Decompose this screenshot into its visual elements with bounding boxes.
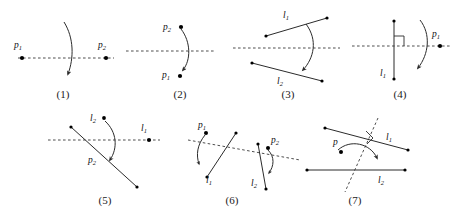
fig7-l2-endpoint-left [305, 168, 308, 171]
figure-3-caption: (3) [258, 88, 318, 100]
fig1-curved-arrow [64, 22, 72, 74]
fig5-segment-endpoint-bottom [135, 185, 138, 188]
fig6-l1-endpoint-top [234, 131, 237, 134]
fig5-segment-endpoint-top [69, 125, 72, 128]
fig3-label-l2: l2 [277, 76, 284, 87]
figure-5-caption: (5) [75, 194, 135, 206]
fig6-point-p2 [266, 146, 270, 150]
fig4-l1-endpoint-top [392, 19, 395, 22]
fig1-label-p1: p1 [13, 40, 22, 51]
figure-4: l1 p1 [352, 19, 452, 80]
fig5-segment-p2 [71, 127, 137, 187]
fig6-l2-endpoint-bottom [264, 187, 267, 190]
fig3-curved-arrow [303, 24, 313, 70]
fig3-segment-l1 [266, 18, 327, 36]
fig6-curved-arrow-right [268, 150, 273, 173]
fig2-label-p2: p2 [162, 22, 172, 33]
fig3-l1-endpoint-left [264, 34, 267, 37]
fig5-point-l1 [147, 138, 151, 142]
fig2-curved-arrow [181, 29, 189, 70]
fig1-label-p2: p2 [97, 40, 107, 51]
fig4-point-p1 [438, 44, 442, 48]
diagram-canvas: p1 p2 p2 p1 l1 l2 [0, 0, 466, 220]
fig1-point-p2 [104, 56, 108, 60]
figure-6-caption: (6) [202, 194, 262, 206]
fig7-curved-arrow [338, 144, 377, 158]
fig6-point-p1 [204, 131, 208, 135]
fig3-l2-endpoint-right [320, 79, 323, 82]
fig4-right-angle-mark [394, 36, 404, 46]
fig6-curved-arrow-left [197, 135, 205, 164]
fig6-mirror-line [188, 140, 300, 160]
fig7-label-l1: l1 [386, 132, 392, 143]
fig2-point-p2 [179, 25, 183, 29]
fig3-l2-endpoint-left [250, 61, 253, 64]
figure-2-caption: (2) [150, 88, 210, 100]
fig5-label-l2: l2 [90, 113, 97, 124]
fig5-point-l2 [102, 116, 106, 120]
fig6-label-l1: l1 [206, 175, 212, 186]
diagram-svg: p1 p2 p2 p1 l1 l2 [0, 0, 466, 220]
fig6-label-p2: p2 [270, 135, 280, 146]
fig6-label-l2: l2 [251, 178, 258, 189]
figure-5: l2 l1 p2 [48, 113, 160, 189]
figure-2: p2 p1 [126, 22, 216, 81]
fig4-curved-arrow [418, 20, 427, 68]
fig6-segment-l2 [258, 144, 266, 189]
fig4-l1-endpoint-bottom [392, 77, 395, 80]
fig7-l1-endpoint-left [323, 126, 326, 129]
fig5-curved-arrow [105, 121, 115, 160]
fig7-label-l2: l2 [378, 175, 385, 186]
figure-7-caption: (7) [325, 194, 385, 206]
fig1-point-p1 [20, 56, 24, 60]
fig2-point-p1 [178, 74, 182, 78]
fig6-l2-endpoint-top [256, 142, 259, 145]
fig2-label-p1: p1 [161, 70, 170, 81]
figure-7: l1 l2 p [305, 118, 409, 192]
fig6-label-p1: p1 [197, 120, 206, 131]
fig5-label-p2: p2 [87, 155, 97, 166]
fig7-point-p [339, 150, 343, 154]
fig7-l1-endpoint-right [406, 148, 409, 151]
figure-1-caption: (1) [33, 88, 93, 100]
fig7-label-p: p [332, 137, 338, 147]
fig3-label-l1: l1 [283, 10, 289, 21]
fig4-label-l1: l1 [380, 68, 386, 79]
fig3-segment-l2 [252, 63, 322, 81]
fig7-mirror-line [345, 118, 378, 192]
fig3-l1-endpoint-right [325, 16, 328, 19]
fig5-label-l1: l1 [141, 123, 147, 134]
figure-3: l1 l2 [233, 10, 340, 87]
fig4-label-p1: p1 [431, 29, 440, 40]
figure-4-caption: (4) [370, 88, 430, 100]
fig6-segment-l1 [207, 133, 236, 177]
figure-6: p1 p2 l1 l2 [188, 120, 300, 191]
fig7-l2-endpoint-right [403, 168, 406, 171]
figure-1: p1 p2 [13, 22, 114, 74]
